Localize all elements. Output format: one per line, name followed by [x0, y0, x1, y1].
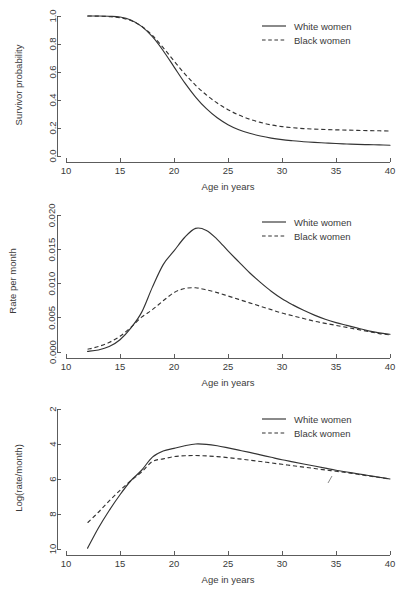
- p1-x-tick-label: 15: [115, 165, 126, 176]
- p3-x-tick-label: 25: [223, 558, 234, 569]
- panel-survivor-probability: 0.00.20.40.60.81.0 10152025303540 White …: [0, 0, 405, 196]
- panel-2-x-axis: 10152025303540: [61, 354, 396, 372]
- p1-x-tick-label: 40: [385, 165, 396, 176]
- p3-x-tick-label: 30: [277, 558, 288, 569]
- p3-y-tick-label: 6: [47, 476, 58, 481]
- panel-1-x-axis: 10152025303540: [61, 158, 396, 176]
- panel-1-svg: 0.00.20.40.60.81.0 10152025303540 White …: [0, 0, 405, 196]
- panel-1-xlabel: Age in years: [202, 181, 255, 192]
- p2-curve-white-women: [88, 228, 390, 351]
- p1-y-tick-label: 1.0: [47, 9, 58, 22]
- p3-legend-label-black: Black women: [294, 428, 351, 439]
- p1-x-tick-label: 25: [223, 165, 234, 176]
- p2-y-tick-label: 0.015: [47, 238, 58, 262]
- p3-y-tick-label: 8: [47, 511, 58, 516]
- p2-x-tick-label: 10: [61, 361, 72, 372]
- panel-3-svg: 246810 10152025303540 White womenBlack w…: [0, 393, 405, 589]
- panel-2-svg: 0.0000.0050.0100.0150.020 10152025303540…: [0, 196, 405, 392]
- p2-x-tick-label: 15: [115, 361, 126, 372]
- p2-x-tick-label: 20: [169, 361, 180, 372]
- panel-3-y-axis: 246810: [47, 406, 62, 554]
- p2-y-tick-label: 0.020: [47, 204, 58, 228]
- panel-3-ylabel: Log(rate/month): [13, 444, 24, 512]
- panel-2-curves: [88, 228, 390, 351]
- stray-tick-mark: [328, 476, 332, 483]
- panel-2-xlabel: Age in years: [202, 377, 255, 388]
- panel-2-ylabel: Rate per month: [7, 248, 18, 313]
- panel-log-rate-per-month: 246810 10152025303540 White womenBlack w…: [0, 393, 405, 589]
- panel-1-y-axis: 0.00.20.40.60.81.0: [47, 9, 62, 162]
- p2-curve-black-women: [88, 288, 390, 350]
- p3-x-tick-label: 40: [385, 558, 396, 569]
- p1-y-tick-label: 0.8: [47, 37, 58, 50]
- p3-y-tick-label: 4: [47, 441, 58, 446]
- p1-y-tick-label: 0.2: [47, 121, 58, 134]
- p1-y-tick-label: 0.0: [47, 149, 58, 162]
- p3-x-tick-label: 20: [169, 558, 180, 569]
- panel-rate-per-month: 0.0000.0050.0100.0150.020 10152025303540…: [0, 196, 405, 392]
- panel-1-legend: White womenBlack women: [262, 21, 352, 46]
- figure-container: 0.00.20.40.60.81.0 10152025303540 White …: [0, 0, 405, 589]
- p2-x-tick-label: 40: [385, 361, 396, 372]
- p2-x-tick-label: 30: [277, 361, 288, 372]
- p1-y-axis-line: [57, 16, 61, 156]
- p3-x-tick-label: 15: [115, 558, 126, 569]
- p2-x-tick-label: 25: [223, 361, 234, 372]
- p3-curve-black-women: [88, 456, 390, 523]
- p1-legend-label-white: White women: [294, 21, 352, 32]
- p3-curve-white-women: [88, 444, 390, 548]
- p1-legend-label-black: Black women: [294, 35, 351, 46]
- p3-y-tick-label: 2: [47, 406, 58, 411]
- p1-x-tick-label: 30: [277, 165, 288, 176]
- p1-x-tick-label: 20: [169, 165, 180, 176]
- panel-2-y-axis: 0.0000.0050.0100.0150.020: [47, 204, 62, 364]
- panel-3-legend: White womenBlack women: [262, 414, 352, 439]
- panel-2-legend: White womenBlack women: [262, 217, 352, 242]
- p1-x-tick-label: 35: [331, 165, 342, 176]
- panel-3-xlabel: Age in years: [202, 574, 255, 585]
- p2-legend-label-white: White women: [294, 217, 352, 228]
- p2-y-tick-label: 0.005: [47, 306, 58, 330]
- p2-x-tick-label: 35: [331, 361, 342, 372]
- p3-y-tick-label: 10: [47, 544, 58, 555]
- p2-legend-label-black: Black women: [294, 231, 351, 242]
- p1-x-tick-label: 10: [61, 165, 72, 176]
- p1-y-tick-label: 0.6: [47, 65, 58, 78]
- panel-3-x-axis: 10152025303540: [61, 551, 396, 569]
- p1-curve-black-women: [88, 16, 390, 131]
- panel-3-curves: [88, 444, 390, 548]
- p2-y-tick-label: 0.010: [47, 272, 58, 296]
- p1-y-tick-label: 0.4: [47, 93, 58, 106]
- p3-x-tick-label: 35: [331, 558, 342, 569]
- panel-1-ylabel: Survivor probability: [13, 44, 24, 125]
- p3-x-tick-label: 10: [61, 558, 72, 569]
- p2-y-tick-label: 0.000: [47, 340, 58, 364]
- p3-legend-label-white: White women: [294, 414, 352, 425]
